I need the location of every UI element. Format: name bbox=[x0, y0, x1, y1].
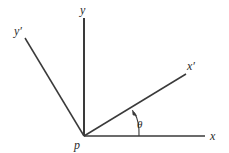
theta-arc-arrowhead bbox=[132, 110, 136, 116]
y-prime-axis-line bbox=[25, 38, 84, 136]
axis-label-y: y bbox=[80, 4, 85, 16]
axis-label-y-prime: y′ bbox=[14, 25, 22, 37]
axes-drawing bbox=[0, 0, 229, 153]
x-prime-axis-line bbox=[84, 74, 186, 136]
point-label-p: p bbox=[74, 139, 80, 151]
axis-label-x: x bbox=[210, 130, 215, 142]
angle-label-theta: θ bbox=[137, 119, 142, 130]
coordinate-axes-figure: y x y′ x′ θ p bbox=[0, 0, 229, 153]
axis-label-x-prime: x′ bbox=[187, 60, 195, 72]
